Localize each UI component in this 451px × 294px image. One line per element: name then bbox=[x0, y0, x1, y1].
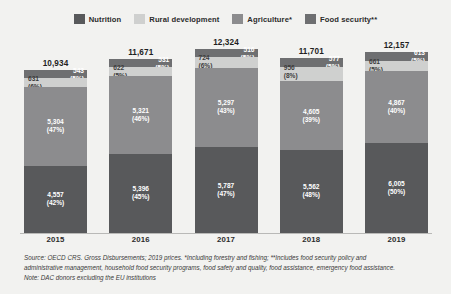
bar-segment-rural-development[interactable]: 5,321(46%) bbox=[109, 76, 172, 154]
segment-value: 516 bbox=[243, 46, 254, 53]
bar-segment-label: 956(8%) bbox=[284, 64, 298, 80]
bar-segment-label: 5,787(47%) bbox=[217, 182, 235, 198]
segment-percent: (48%) bbox=[302, 191, 320, 198]
segment-value: 531 bbox=[158, 56, 169, 63]
segment-value: 5,562 bbox=[303, 183, 320, 190]
segment-percent: (46%) bbox=[132, 115, 150, 122]
legend-swatch-nutrition bbox=[74, 14, 85, 24]
chart-legend: NutritionRural developmentAgriculture*Fo… bbox=[0, 14, 451, 24]
footnote-line-3: Note: DAC donors excluding the EU instit… bbox=[24, 273, 428, 283]
bar-segment-label: 4,867(40%) bbox=[388, 99, 406, 115]
bar-group: 10,934543(5%)631(6%)5,304(47%)4,557(42%)… bbox=[24, 36, 428, 233]
segment-value: 622 bbox=[113, 64, 124, 71]
bar-stack: 531(5%)622(5%)5,321(46%)5,396(45%) bbox=[109, 59, 172, 233]
segment-percent: (8%) bbox=[284, 72, 298, 79]
legend-swatch-agriculture bbox=[232, 14, 243, 24]
bar-column-2018[interactable]: 11,701577(5%)956(8%)4,605(39%)5,562(48%) bbox=[280, 36, 343, 233]
bar-stack: 613(5%)661(5%)4,867(40%)6,005(50%) bbox=[365, 52, 428, 234]
segment-value: 4,867 bbox=[388, 99, 405, 106]
bar-segment-nutrition[interactable]: 5,562(48%) bbox=[280, 150, 343, 233]
bar-segment-label: 6,005(50%) bbox=[388, 180, 406, 196]
bar-segment-label: 4,605(39%) bbox=[302, 108, 320, 124]
bar-segment-agriculture[interactable]: 956(8%) bbox=[280, 67, 343, 81]
footnote-line-1: Source: OECD CRS. Gross Disbursements; 2… bbox=[24, 253, 428, 263]
segment-value: 5,321 bbox=[132, 107, 149, 114]
segment-percent: (47%) bbox=[217, 190, 235, 197]
bar-segment-nutrition[interactable]: 5,396(45%) bbox=[109, 154, 172, 233]
segment-value: 613 bbox=[414, 49, 425, 56]
plot-area: 10,934543(5%)631(6%)5,304(47%)4,557(42%)… bbox=[24, 36, 428, 233]
bar-column-2016[interactable]: 11,671531(5%)622(5%)5,321(46%)5,396(45%) bbox=[109, 36, 172, 233]
segment-value: 5,297 bbox=[218, 99, 235, 106]
footnote-line-2: administrative management, household foo… bbox=[24, 263, 428, 273]
legend-label: Rural development bbox=[149, 15, 219, 24]
segment-value: 724 bbox=[199, 54, 210, 61]
chart-footnote: Source: OECD CRS. Gross Disbursements; 2… bbox=[24, 253, 428, 282]
segment-percent: (45%) bbox=[132, 193, 150, 200]
bar-segment-label: 5,396(45%) bbox=[132, 185, 150, 201]
bar-column-2017[interactable]: 12,324516(5%)724(6%)5,297(43%)5,787(47%) bbox=[195, 36, 258, 233]
bar-segment-rural-development[interactable]: 4,867(40%) bbox=[365, 71, 428, 144]
segment-value: 4,557 bbox=[47, 191, 64, 198]
bar-segment-agriculture[interactable]: 661(5%) bbox=[365, 61, 428, 71]
segment-percent: (40%) bbox=[388, 107, 406, 114]
bar-column-2019[interactable]: 12,157613(5%)661(5%)4,867(40%)6,005(50%) bbox=[365, 36, 428, 233]
chart-page: NutritionRural developmentAgriculture*Fo… bbox=[0, 0, 451, 294]
segment-percent: (47%) bbox=[47, 126, 65, 133]
x-axis-tick-labels: 20152016201720182019 bbox=[24, 235, 428, 244]
segment-percent: (50%) bbox=[388, 188, 406, 195]
bar-segment-label: 5,321(46%) bbox=[132, 107, 150, 123]
legend-item-nutrition[interactable]: Nutrition bbox=[74, 14, 122, 24]
bar-segment-label: 4,557(42%) bbox=[47, 191, 65, 207]
x-tick-2019: 2019 bbox=[365, 235, 428, 244]
segment-value: 6,005 bbox=[388, 180, 405, 187]
bar-segment-label: 5,562(48%) bbox=[302, 183, 320, 199]
bar-segment-nutrition[interactable]: 6,005(50%) bbox=[365, 143, 428, 233]
legend-item-rural-development[interactable]: Rural development bbox=[134, 14, 219, 24]
segment-value: 5,396 bbox=[132, 185, 149, 192]
bar-segment-label: 5,304(47%) bbox=[47, 118, 65, 134]
x-tick-2018: 2018 bbox=[280, 235, 343, 244]
segment-value: 577 bbox=[329, 55, 340, 62]
bar-stack: 516(5%)724(6%)5,297(43%)5,787(47%) bbox=[195, 49, 258, 233]
segment-value: 543 bbox=[73, 67, 84, 74]
bar-segment-agriculture[interactable]: 724(6%) bbox=[195, 57, 258, 68]
x-tick-2016: 2016 bbox=[109, 235, 172, 244]
segment-value: 631 bbox=[28, 75, 39, 82]
bar-stack: 543(5%)631(6%)5,304(47%)4,557(42%) bbox=[24, 70, 87, 233]
bar-segment-nutrition[interactable]: 4,557(42%) bbox=[24, 166, 87, 233]
legend-label: Food security** bbox=[320, 15, 377, 24]
x-tick-2017: 2017 bbox=[195, 235, 258, 244]
segment-value: 5,787 bbox=[218, 182, 235, 189]
bar-stack: 577(5%)956(8%)4,605(39%)5,562(48%) bbox=[280, 58, 343, 233]
bar-segment-rural-development[interactable]: 4,605(39%) bbox=[280, 81, 343, 150]
legend-label: Agriculture* bbox=[247, 15, 292, 24]
bar-segment-agriculture[interactable]: 631(6%) bbox=[24, 78, 87, 87]
segment-value: 5,304 bbox=[47, 118, 64, 125]
x-tick-2015: 2015 bbox=[24, 235, 87, 244]
segment-percent: (39%) bbox=[302, 116, 320, 123]
bar-segment-rural-development[interactable]: 5,297(43%) bbox=[195, 68, 258, 147]
segment-value: 956 bbox=[284, 64, 295, 71]
bar-column-2015[interactable]: 10,934543(5%)631(6%)5,304(47%)4,557(42%) bbox=[24, 36, 87, 233]
segment-value: 4,605 bbox=[303, 108, 320, 115]
segment-value: 661 bbox=[369, 58, 380, 65]
legend-item-food-security[interactable]: Food security** bbox=[305, 14, 377, 24]
bar-segment-rural-development[interactable]: 5,304(47%) bbox=[24, 87, 87, 165]
bar-segment-nutrition[interactable]: 5,787(47%) bbox=[195, 147, 258, 233]
x-axis-line bbox=[20, 233, 432, 234]
legend-label: Nutrition bbox=[89, 15, 122, 24]
legend-swatch-rural-development bbox=[134, 14, 145, 24]
bar-segment-agriculture[interactable]: 622(5%) bbox=[109, 67, 172, 76]
legend-swatch-food-security bbox=[305, 14, 316, 24]
segment-percent: (42%) bbox=[47, 199, 65, 206]
segment-percent: (43%) bbox=[217, 107, 235, 114]
legend-item-agriculture[interactable]: Agriculture* bbox=[232, 14, 292, 24]
bar-segment-label: 5,297(43%) bbox=[217, 99, 235, 115]
